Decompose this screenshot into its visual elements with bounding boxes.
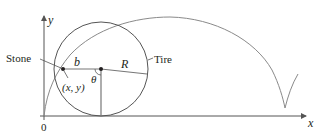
origin-label: 0 (41, 121, 47, 133)
theta-label: θ (91, 73, 97, 85)
stone-label: Stone (6, 52, 31, 64)
R-label: R (120, 57, 129, 71)
trochoid-curve (44, 17, 298, 116)
center-point (99, 67, 103, 71)
tire-label: Tire (154, 53, 172, 65)
y-axis-label: y (47, 13, 54, 27)
stone-leader (40, 59, 61, 68)
point-leader (64, 71, 68, 78)
diagram-canvas: y x 0 Stone Tire b R θ (x, y) (0, 0, 318, 139)
b-label: b (74, 55, 80, 69)
tire-leader (148, 58, 153, 60)
trochoid-diagram: y x 0 Stone Tire b R θ (x, y) (0, 0, 318, 139)
point-label: (x, y) (62, 81, 85, 94)
x-axis-label: x (307, 116, 314, 130)
stone-point (61, 67, 65, 71)
